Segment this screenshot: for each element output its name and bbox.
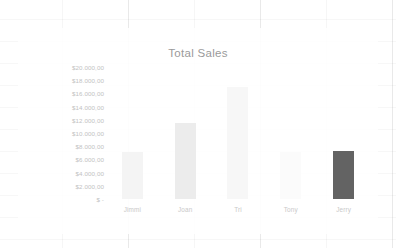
y-axis-tick-label: $16.000,00	[72, 90, 104, 97]
chart-container[interactable]: Total Sales $20.000,00$18.000,00$16.000,…	[18, 28, 378, 234]
x-axis-tick-label: Jimmi	[106, 206, 159, 213]
x-axis-tick-label: Tri	[212, 206, 265, 213]
x-axis-tick-label: Jerry	[317, 206, 370, 213]
plot-area	[106, 71, 370, 199]
y-axis-tick-label: $6.000,00	[76, 156, 104, 163]
bar-tony[interactable]	[280, 152, 301, 199]
y-axis-tick-label: $20.000,00	[72, 64, 104, 71]
chart-title: Total Sales	[18, 47, 378, 59]
bar-slot	[317, 71, 370, 199]
bar-slot	[106, 71, 159, 199]
y-axis-tick-label: $18.000,00	[72, 77, 104, 84]
bar-jimmi[interactable]	[122, 152, 143, 199]
y-axis-tick-label: $12.000,00	[72, 116, 104, 123]
bar-slot	[212, 71, 265, 199]
y-axis-tick-label: $10.000,00	[72, 130, 104, 137]
bar-joan[interactable]	[175, 123, 196, 199]
bar-series	[106, 71, 370, 199]
y-axis: $20.000,00$18.000,00$16.000,00$14.000,00…	[38, 67, 104, 199]
x-axis-tick-label: Tony	[264, 206, 317, 213]
y-axis-tick-label: $2.000,00	[76, 182, 104, 189]
y-axis-tick-label: $14.000,00	[72, 103, 104, 110]
x-axis: JimmiJoanTriTonyJerry	[106, 206, 370, 213]
y-axis-tick-label: $4.000,00	[76, 169, 104, 176]
bar-slot	[159, 71, 212, 199]
y-axis-tick-label: $ -	[96, 196, 104, 203]
bar-slot	[264, 71, 317, 199]
bar-jerry[interactable]	[333, 151, 354, 199]
x-axis-tick-label: Joan	[159, 206, 212, 213]
y-axis-tick-label: $8.000,00	[76, 143, 104, 150]
bar-tri[interactable]	[227, 87, 248, 199]
